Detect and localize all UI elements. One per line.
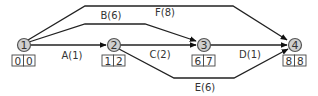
node-2: 2 1 2 xyxy=(102,39,125,67)
node-number: 2 xyxy=(111,39,118,52)
time-box: 6 7 xyxy=(192,55,215,67)
time-box: 8 8 xyxy=(283,55,306,67)
edge-label-f: F(8) xyxy=(155,7,175,18)
latest-time: 7 xyxy=(206,55,213,67)
earliest-time: 6 xyxy=(194,55,201,67)
earliest-time: 1 xyxy=(104,55,111,67)
edge-c: C(2) xyxy=(120,45,196,60)
edge-label-e: E(6) xyxy=(195,82,216,93)
time-box: 1 2 xyxy=(102,55,125,67)
network-diagram: F(8) B(6) A(1) C(2) D(1) E(6) 1 0 0 xyxy=(0,0,318,96)
edge-f: F(8) xyxy=(28,6,287,40)
node-1: 1 0 0 xyxy=(12,39,35,67)
latest-time: 2 xyxy=(116,55,123,67)
edge-label-b: B(6) xyxy=(100,10,121,21)
edge-a: A(1) xyxy=(30,45,106,61)
edge-label-a: A(1) xyxy=(61,50,82,61)
edge-label-c: C(2) xyxy=(149,49,170,60)
node-4: 4 8 8 xyxy=(283,39,306,67)
node-number: 3 xyxy=(201,39,208,52)
node-number: 4 xyxy=(292,39,299,52)
earliest-time: 8 xyxy=(285,55,292,67)
earliest-time: 0 xyxy=(14,55,21,67)
edge-d: D(1) xyxy=(210,45,287,60)
node-number: 1 xyxy=(21,39,28,52)
latest-time: 0 xyxy=(26,55,33,67)
time-box: 0 0 xyxy=(12,55,35,67)
latest-time: 8 xyxy=(297,55,304,67)
node-3: 3 6 7 xyxy=(192,39,215,67)
edge-label-d: D(1) xyxy=(239,49,261,60)
